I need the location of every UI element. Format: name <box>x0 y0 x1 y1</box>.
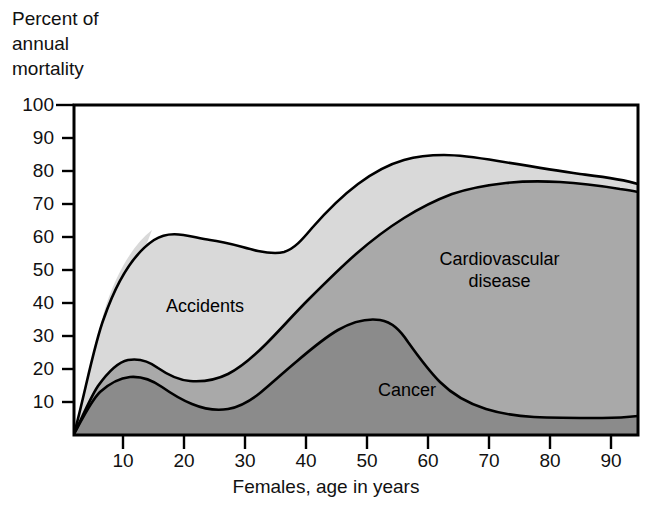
stacked-area-chart-figure: Percent of annual mortality 100 90 80 70… <box>0 0 652 508</box>
series-label-cardiovascular: Cardiovascular disease <box>412 248 587 292</box>
x-axis-label: Females, age in years <box>0 476 652 498</box>
y-tick-marks <box>56 105 74 402</box>
x-tick-marks <box>123 435 611 449</box>
series-label-accidents: Accidents <box>140 295 270 317</box>
series-label-cancer: Cancer <box>352 379 462 401</box>
